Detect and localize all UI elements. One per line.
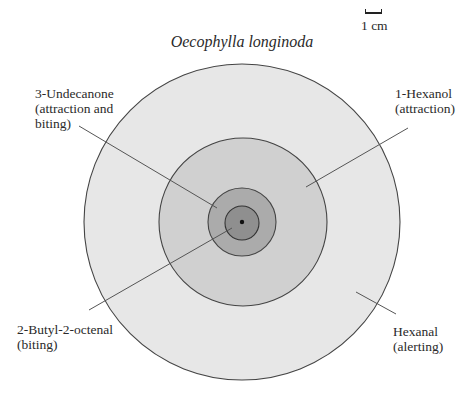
label-undecanone-effect: (attraction and xyxy=(35,101,114,116)
label-hexanol: 1-Hexanol (attraction) xyxy=(395,86,455,116)
label-hexanal-name: Hexanal xyxy=(393,324,443,339)
label-butyloctenal: 2-Butyl-2-octenal (biting) xyxy=(17,322,113,352)
species-title: Oecophylla longinoda xyxy=(0,33,474,51)
label-undecanone-effect-cont: biting) xyxy=(35,116,114,131)
label-undecanone-name: 3-Undecanone xyxy=(35,86,114,101)
label-undecanone: 3-Undecanone (attraction and biting) xyxy=(35,86,114,131)
label-butyloctenal-name: 2-Butyl-2-octenal xyxy=(17,322,113,337)
pheromone-source-dot xyxy=(240,220,244,224)
label-butyloctenal-effect: (biting) xyxy=(17,337,113,352)
label-hexanal-effect: (alerting) xyxy=(393,339,443,354)
scale-bar-label: 1 cm xyxy=(361,18,388,34)
scale-bar-icon xyxy=(365,9,382,14)
label-hexanol-effect: (attraction) xyxy=(395,101,455,116)
label-hexanol-name: 1-Hexanol xyxy=(395,86,455,101)
label-hexanal: Hexanal (alerting) xyxy=(393,324,443,354)
